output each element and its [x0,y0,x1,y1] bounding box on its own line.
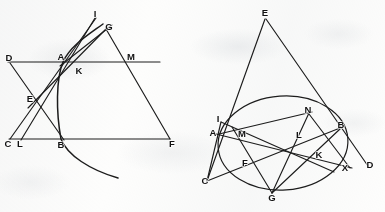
point-label-i-fig2: I [217,113,220,124]
line-E-C [207,19,265,181]
line-G-E [28,28,107,108]
point-label-m-fig2: M [238,128,246,139]
point-label-d-fig2: D [367,159,374,170]
figure-page: IGDAMKECLBF ENIBAMLKFXDCG [0,0,385,212]
point-label-i-fig1: I [94,8,97,19]
point-label-k-fig2: K [316,149,323,160]
point-label-e-fig1: E [27,93,33,104]
point-label-m-fig1: M [127,51,135,62]
line-I-C [10,18,96,139]
line-G-F [106,29,170,139]
point-label-g-fig2: G [268,192,275,203]
point-label-f-fig2: F [242,157,248,168]
point-label-a-fig1: A [58,51,65,62]
point-label-a-fig2: A [210,127,217,138]
point-label-d-fig1: D [6,52,13,63]
point-label-l-fig2: L [296,129,302,140]
point-label-n-fig2: N [305,104,312,115]
right-figure: ENIBAMLKFXDCG [202,7,374,203]
line-E-D [266,19,368,166]
line-B-G [272,129,340,193]
point-label-c-fig1: C [5,138,12,149]
line-A-X [216,134,352,168]
point-label-l-fig1: L [17,138,23,149]
point-label-f-fig1: F [169,138,175,149]
point-label-x-fig2: X [342,162,349,173]
point-label-k-fig1: K [76,65,83,76]
point-label-e-fig2: E [262,7,268,18]
point-label-g-fig1: G [105,21,112,32]
point-label-c-fig2: C [202,175,209,186]
point-label-b-fig1: B [58,139,65,150]
left-figure: IGDAMKECLBF [5,8,176,178]
geometry-canvas: IGDAMKECLBF ENIBAMLKFXDCG [0,0,385,212]
point-label-b-fig2: B [338,119,345,130]
